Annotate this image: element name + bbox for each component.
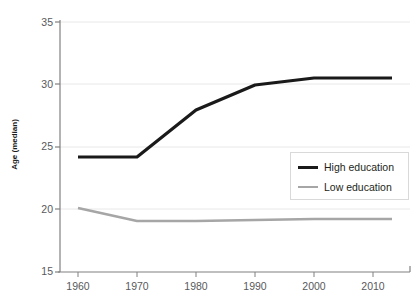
series-line-high-education [78,78,392,157]
legend-swatch-high-education [298,166,318,169]
x-tick-label-2010: 2010 [350,281,396,292]
y-tick-marks [55,22,60,272]
x-tick-label-1970: 1970 [114,281,160,292]
legend-item-low-education: Low education [298,179,392,195]
legend-label-high-education: High education [324,162,394,173]
series-line-low-education [78,208,392,221]
legend-item-high-education: High education [298,159,394,175]
chart-legend: High education Low education [290,152,409,200]
chart-container: Age (median) 35 30 25 20 15 [0,0,415,303]
x-tick-label-1980: 1980 [173,281,219,292]
legend-label-low-education: Low education [324,182,392,193]
x-tick-label-2000: 2000 [291,281,337,292]
x-tick-label-1960: 1960 [55,281,101,292]
axis-lines [58,20,410,272]
x-tick-label-1990: 1990 [232,281,278,292]
x-tick-marks [78,272,373,277]
legend-swatch-low-education [298,186,318,188]
